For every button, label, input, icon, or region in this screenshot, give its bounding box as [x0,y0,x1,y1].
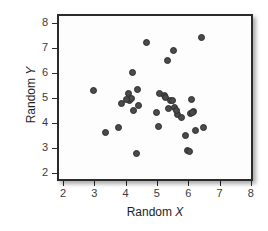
data-point [169,97,176,104]
data-point [200,124,207,131]
data-point [133,150,140,157]
data-point [143,39,150,46]
data-point [115,124,122,131]
data-point [165,105,172,112]
x-axis-label-text: Random [127,205,172,219]
data-point [170,47,177,54]
y-axis-label: Random Y [24,35,38,155]
x-tick-label-7: 7 [210,187,230,199]
x-tick-2 [63,181,64,186]
data-point [155,123,162,130]
data-point [182,132,189,139]
data-point [90,87,97,94]
x-tick-5 [157,181,158,186]
y-tick-label-2: 2 [28,166,48,178]
x-tick-label-2: 2 [53,187,73,199]
data-point [173,107,180,114]
data-point [186,148,193,155]
x-tick-6 [188,181,189,186]
x-tick-8 [251,181,252,186]
x-axis-label-variable: X [175,205,183,219]
x-tick-label-8: 8 [241,187,261,199]
x-tick-7 [220,181,221,186]
data-point [153,109,160,116]
data-point [192,127,199,134]
y-tick-label-8: 8 [28,16,48,28]
x-tick-3 [94,181,95,186]
x-tick-4 [126,181,127,186]
data-point [134,86,141,93]
data-point [189,109,196,116]
data-point [123,96,130,103]
x-tick-label-6: 6 [178,187,198,199]
y-axis-label-text: Random [24,78,38,123]
data-point [198,34,205,41]
x-tick-label-4: 4 [116,187,136,199]
x-tick-label-3: 3 [84,187,104,199]
data-point [129,69,136,76]
data-point [102,129,109,136]
data-point [164,57,171,64]
data-point [178,114,185,121]
x-tick-label-5: 5 [147,187,167,199]
data-point [188,96,195,103]
y-axis-label-variable: Y [24,67,38,75]
plot-area [59,16,251,179]
data-point [135,102,142,109]
x-axis-label: Random X [57,205,253,219]
scatter-plot-figure: 2345678 2345678 Random X Random Y [0,0,268,231]
plot-frame [57,14,253,181]
